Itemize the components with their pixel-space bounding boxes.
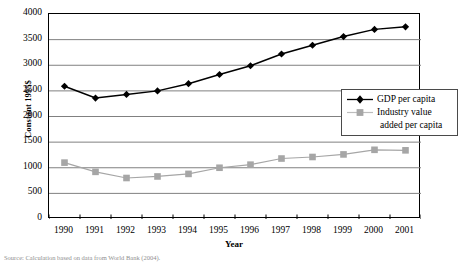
legend-label-gdp: GDP per capita	[377, 93, 435, 106]
y-axis-tick-label: 3000	[10, 59, 42, 69]
data-point	[309, 42, 316, 49]
data-point	[278, 155, 285, 162]
data-point	[123, 175, 130, 182]
x-axis-tick-label: 2001	[385, 225, 425, 235]
data-point	[92, 169, 99, 176]
data-point	[216, 164, 223, 171]
legend-label-industry: Industry value	[377, 106, 432, 119]
y-axis-tick-label: 0	[10, 213, 42, 223]
x-axis-label: Year	[48, 239, 420, 249]
data-point	[92, 94, 99, 101]
data-point	[185, 171, 192, 178]
chart-legend: GDP per capita Industry value added per …	[341, 89, 458, 136]
data-point	[123, 91, 130, 98]
legend-item-industry-line2: added per capita	[342, 119, 457, 132]
y-axis-tick-label: 3500	[10, 34, 42, 44]
series-line-1	[65, 150, 406, 178]
data-point	[371, 147, 378, 154]
data-point	[371, 26, 378, 33]
y-axis-tick-label: 2500	[10, 85, 42, 95]
y-axis-tick-label: 2000	[10, 111, 42, 121]
y-axis-tick-label: 1000	[10, 162, 42, 172]
industry-series-marker-icon	[346, 106, 374, 119]
data-point	[247, 62, 254, 69]
y-axis-tick-label: 4000	[10, 8, 42, 18]
data-point	[402, 147, 409, 154]
legend-item-gdp: GDP per capita	[342, 93, 457, 106]
plot-area: GDP per capita Industry value added per …	[48, 13, 420, 218]
data-point	[340, 33, 347, 40]
data-point	[247, 161, 254, 168]
gdp-series-marker-icon	[346, 93, 374, 106]
data-point	[278, 50, 285, 57]
y-axis-tick-label: 1500	[10, 136, 42, 146]
data-point	[154, 173, 161, 180]
legend-item-industry: Industry value	[342, 106, 457, 119]
data-point	[61, 83, 68, 90]
data-point	[154, 87, 161, 94]
series-line-0	[65, 27, 406, 98]
x-axis-tick-labels: 1990199119921993199419951996199719981999…	[48, 225, 420, 239]
source-note: Source: Calculation based on data from W…	[4, 254, 160, 262]
data-point	[61, 159, 68, 166]
y-axis-tick-labels: 05001000150020002500300035004000	[10, 0, 42, 263]
data-point	[402, 23, 409, 30]
legend-label-industry-continued: added per capita	[380, 119, 442, 132]
data-point	[216, 71, 223, 78]
data-point	[309, 154, 316, 161]
data-point	[340, 151, 347, 158]
data-point	[185, 80, 192, 87]
y-axis-tick-label: 500	[10, 187, 42, 197]
